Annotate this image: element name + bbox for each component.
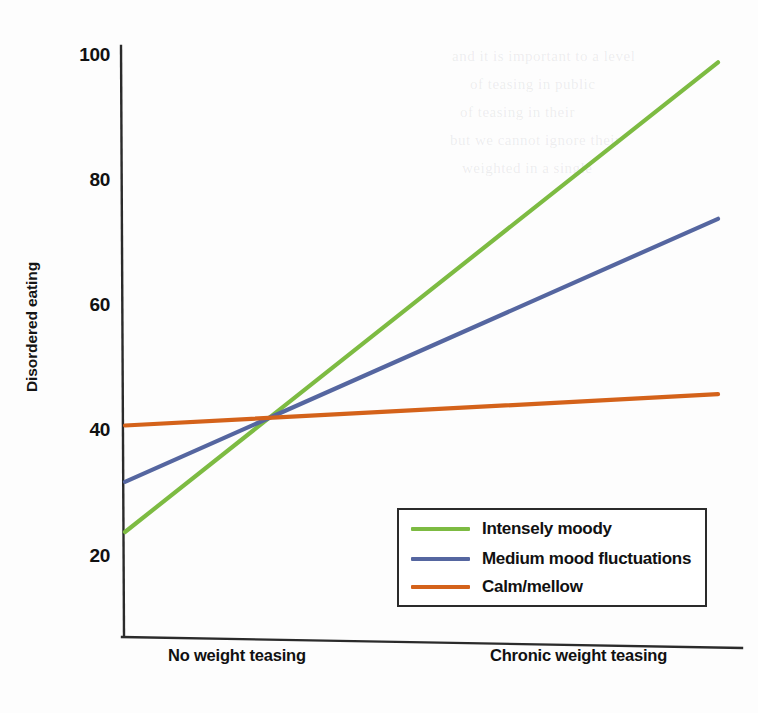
legend-swatch-calm-mellow [411, 585, 470, 589]
chart-legend: Intensely moody Medium mood fluctuations… [397, 508, 707, 607]
legend-item-calm-mellow: Calm/mellow [411, 574, 583, 600]
x-tick-label-no-weight-teasing: No weight teasing [168, 646, 306, 665]
legend-item-intensely-moody: Intensely moody [411, 516, 612, 542]
legend-item-medium-mood-fluctuations: Medium mood fluctuations [411, 546, 691, 572]
series-line-calm-mellow [125, 394, 718, 425]
legend-swatch-medium-mood-fluctuations [411, 557, 470, 561]
legend-swatch-intensely-moody [411, 527, 470, 531]
legend-label-calm-mellow: Calm/mellow [482, 577, 583, 597]
series-line-intensely-moody [125, 62, 718, 532]
chart-figure: and it is important to a level of teasin… [0, 0, 758, 713]
series-line-medium-mood-fluctuations [125, 219, 718, 482]
y-axis-spine [121, 46, 124, 636]
x-tick-label-chronic-weight-teasing: Chronic weight teasing [490, 646, 667, 665]
legend-label-intensely-moody: Intensely moody [482, 519, 612, 539]
legend-label-medium-mood-fluctuations: Medium mood fluctuations [482, 549, 691, 569]
